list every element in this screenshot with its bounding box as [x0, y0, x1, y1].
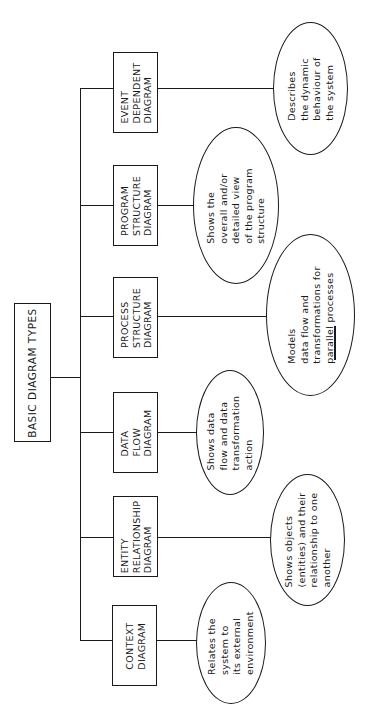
desc-text: Relates the system to its external envir… — [206, 611, 256, 675]
node-label: ENTITY RELATIONSHIP DIAGRAM — [118, 500, 153, 572]
node-label: CONTEXT DIAGRAM — [123, 622, 146, 669]
underlined-word: parallel — [323, 326, 334, 364]
node-process-structure: PROCESS STRUCTURE DIAGRAM — [113, 277, 158, 358]
desc-text: Shows the overall and/or detailed view o… — [205, 168, 268, 244]
desc-process-structure: Models data flow and transformations for… — [266, 234, 355, 396]
desc-text: Shows data flow and data transformation … — [205, 395, 255, 470]
branch-data-flow — [80, 432, 113, 433]
link-program-structure — [157, 205, 195, 206]
link-data-flow — [157, 432, 197, 433]
desc-text: Shows objects (entities) and their relat… — [283, 493, 333, 588]
desc-entity-relationship: Shows objects (entities) and their relat… — [270, 474, 345, 606]
node-program-structure: PROGRAM STRUCTURE DIAGRAM — [113, 165, 158, 246]
node-label: DATA FLOW DIAGRAM — [118, 409, 153, 456]
link-context — [156, 640, 197, 641]
branch-context — [80, 640, 112, 641]
desc-text: Models data flow and transformations for… — [286, 266, 336, 363]
node-context: CONTEXT DIAGRAM — [112, 605, 157, 686]
node-entity-relationship: ENTITY RELATIONSHIP DIAGRAM — [113, 496, 158, 577]
node-data-flow: DATA FLOW DIAGRAM — [113, 392, 158, 473]
node-event-dependent: EVENT DEPENDENT DIAGRAM — [113, 52, 158, 133]
node-label: PROCESS STRUCTURE DIAGRAM — [118, 287, 153, 347]
desc-program-structure: Shows the overall and/or detailed view o… — [193, 127, 279, 284]
branch-process-structure — [80, 316, 113, 317]
link-event-dependent — [157, 88, 274, 89]
link-process-structure — [157, 316, 267, 317]
root-connector — [50, 377, 81, 378]
branch-entity-relationship — [80, 537, 113, 538]
desc-context: Relates the system to its external envir… — [196, 582, 266, 704]
root-label: BASIC DIAGRAM TYPES — [27, 308, 39, 438]
desc-event-dependent: Describes the dynamic behaviour of the s… — [273, 22, 348, 155]
node-label: EVENT DEPENDENT DIAGRAM — [118, 62, 153, 123]
branch-event-dependent — [80, 88, 113, 89]
link-entity-relationship — [157, 537, 271, 538]
trunk-line — [80, 88, 81, 641]
desc-text: Describes the dynamic behaviour of the s… — [286, 57, 336, 121]
desc-data-flow: Shows data flow and data transformation … — [196, 370, 264, 495]
node-label: PROGRAM STRUCTURE DIAGRAM — [118, 175, 153, 235]
branch-program-structure — [80, 205, 113, 206]
root-node: BASIC DIAGRAM TYPES — [14, 303, 51, 442]
